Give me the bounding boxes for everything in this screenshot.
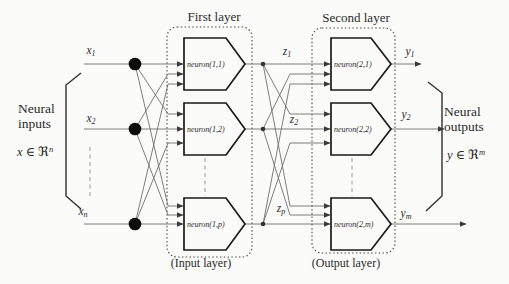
input-dot-xn <box>129 218 142 231</box>
connection-line <box>135 143 183 224</box>
connection-line <box>135 84 183 224</box>
input-domain-var: x <box>17 145 23 159</box>
input-label-xn: xn <box>78 205 87 220</box>
connections-input-to-first <box>84 64 183 224</box>
neuron-label-2-1: neuron(2,1) <box>334 60 372 69</box>
output-layer-caption: (Output layer) <box>312 257 380 270</box>
output-label-y1: y1 <box>405 45 414 60</box>
left-bracket <box>66 73 81 209</box>
output-label-ym: ym <box>401 207 412 222</box>
neural-outputs-line1: Neural <box>444 105 484 120</box>
junction-dot-z2 <box>261 127 266 132</box>
output-domain-rel: ∈ <box>456 148 465 162</box>
neuron-label-2-m: neuron(2,m) <box>334 220 373 229</box>
neural-inputs-line1: Neural <box>18 102 55 117</box>
input-label-x1: x1 <box>86 44 95 59</box>
input-domain-set: ℜ <box>38 145 49 159</box>
connection-line <box>263 64 330 114</box>
neural-outputs-label: Neural outputs <box>444 105 484 134</box>
connection-line <box>263 84 330 224</box>
input-dot-x1 <box>129 58 142 71</box>
hidden-zp-sub: p <box>281 207 285 216</box>
output-y2-sub: 2 <box>407 113 411 122</box>
neural-network-diagram: First layer Second layer (Input layer) (… <box>0 0 509 284</box>
hidden-label-zp: zp <box>277 202 285 217</box>
right-bracket <box>426 82 442 211</box>
input-layer-caption: (Input layer) <box>171 257 231 270</box>
neural-inputs-line2: inputs <box>18 117 55 132</box>
input-domain-rel: ∈ <box>26 145 35 159</box>
output-domain-sup: m <box>479 147 485 157</box>
output-y1-sub: 1 <box>411 50 415 59</box>
output-label-y2: y2 <box>401 108 410 123</box>
input-dot-x2 <box>129 123 142 136</box>
hidden-junction-dots <box>261 62 266 227</box>
junction-dot-z1 <box>261 62 266 67</box>
input-x2-sub: 2 <box>92 117 96 126</box>
connection-line <box>135 129 183 215</box>
output-domain-set: ℜ <box>468 148 479 162</box>
neuron-label-2-2: neuron(2,2) <box>334 125 372 134</box>
neuron-label-1-p: neuron(1,p) <box>187 220 225 229</box>
output-ym-sub: m <box>406 212 412 221</box>
output-domain-label: y ∈ ℜm <box>447 148 485 163</box>
input-x1-sub: 1 <box>92 49 96 58</box>
input-domain-label: x ∈ ℜn <box>17 145 53 160</box>
hidden-z2-sub: 2 <box>294 118 298 127</box>
connections-first-to-second <box>245 64 330 224</box>
hidden-z1-sub: 1 <box>287 50 291 59</box>
hidden-label-z1: z1 <box>283 45 291 60</box>
neuron-label-1-2: neuron(1,2) <box>187 125 225 134</box>
second-layer-title: Second layer <box>322 11 390 25</box>
junction-dot-zp <box>261 222 266 227</box>
first-layer-neurons <box>184 38 245 250</box>
hidden-label-z2: z2 <box>290 113 298 128</box>
neuron-label-1-1: neuron(1,1) <box>187 60 225 69</box>
input-xn-sub: n <box>84 210 88 219</box>
connection-line <box>135 64 183 206</box>
input-domain-sup: n <box>49 144 53 154</box>
neural-inputs-label: Neural inputs <box>18 102 55 131</box>
connection-line <box>263 64 330 206</box>
neural-outputs-line2: outputs <box>444 120 484 135</box>
output-domain-var: y <box>447 148 453 162</box>
second-layer-neurons <box>331 38 391 250</box>
diagram-canvas <box>0 0 509 284</box>
connection-line <box>263 143 330 224</box>
first-layer-title: First layer <box>187 10 240 24</box>
input-label-x2: x2 <box>86 112 95 127</box>
output-arrows <box>391 64 466 224</box>
